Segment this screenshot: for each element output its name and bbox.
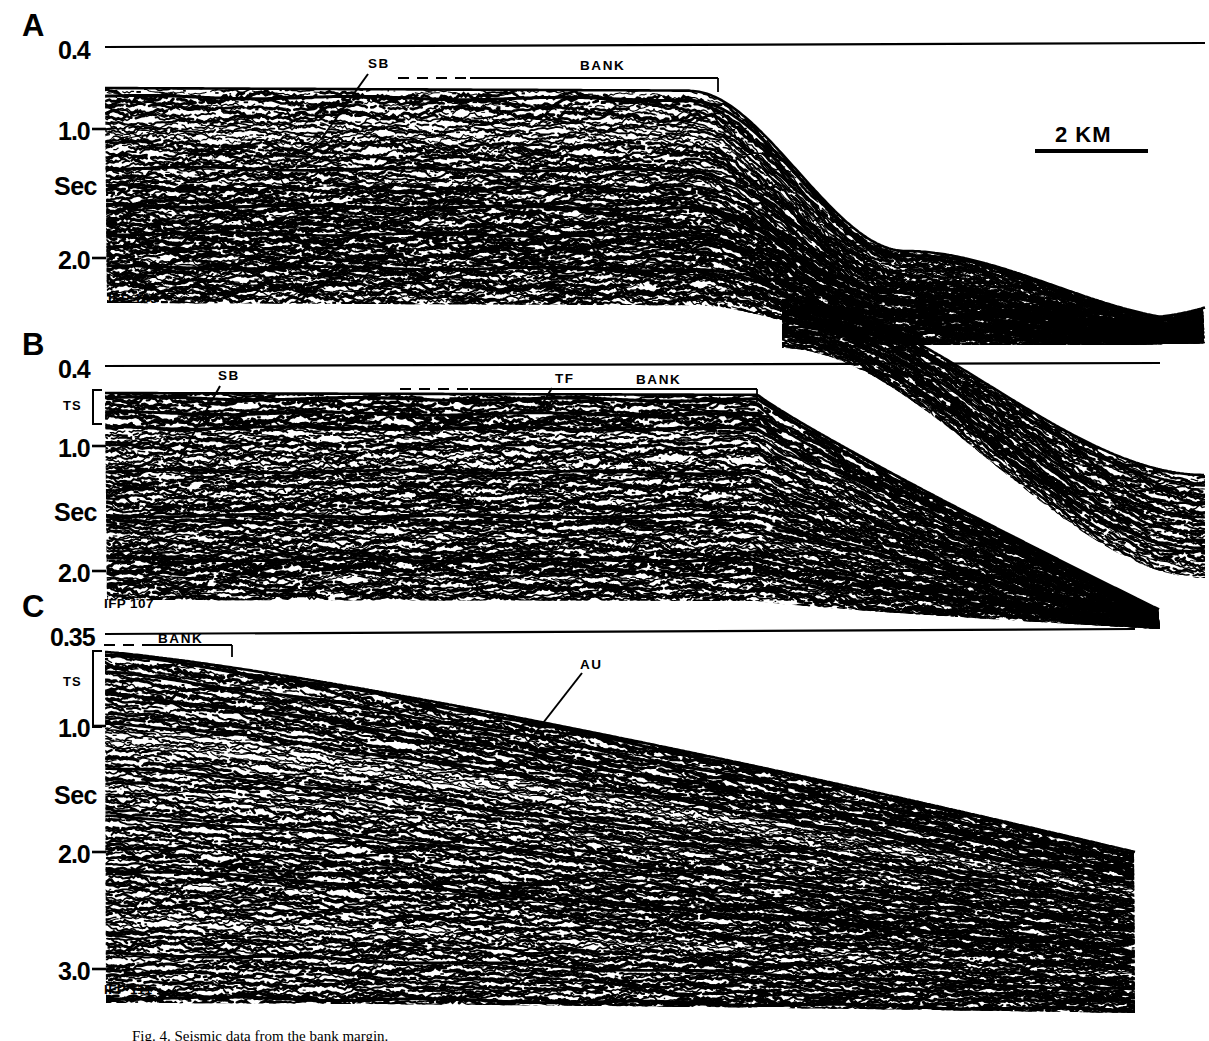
annotation-tf-b: TF: [555, 371, 575, 386]
axis-tick-label-c-3: 2.0: [58, 840, 90, 869]
axis-tick-label-b-1: 1.0: [58, 434, 90, 463]
seismic-figure: [0, 0, 1209, 1041]
axis-tick-label-c-0: 0.35: [50, 623, 95, 652]
axis-tick-label-a-1: 1.0: [58, 117, 90, 146]
ts-label-b: TS: [63, 398, 82, 413]
annotation-bank-b: BANK: [636, 372, 681, 387]
panel-letter-a: A: [22, 8, 44, 44]
scale-bar-label: 2 KM: [1055, 122, 1112, 148]
axis-tick-label-c-4: 3.0: [58, 957, 90, 986]
panel-letter-b: B: [22, 327, 44, 363]
annotation-bank-a: BANK: [580, 58, 625, 73]
seismic-canvas: [0, 0, 1209, 1041]
axis-tick-label-b-3: 2.0: [58, 559, 90, 588]
survey-line-label-c: IFP 111: [104, 982, 152, 997]
survey-line-label-a: IFP 103: [108, 291, 158, 306]
bracket-label-bank-c: BANK: [158, 631, 203, 646]
axis-tick-label-b-2: Sec: [54, 498, 97, 527]
ts-label-c: TS: [63, 674, 82, 689]
annotation-sb-a: SB: [368, 56, 390, 71]
axis-tick-label-a-0: 0.4: [58, 36, 90, 65]
annotation-sb-b: SB: [218, 368, 240, 383]
axis-tick-label-a-2: Sec: [54, 172, 97, 201]
panel-letter-c: C: [22, 589, 44, 625]
axis-tick-label-b-0: 0.4: [58, 355, 90, 384]
axis-tick-label-c-1: 1.0: [58, 714, 90, 743]
survey-line-label-b: IFP 107: [104, 596, 154, 611]
figure-caption: Fig. 4. Seismic data from the bank margi…: [132, 1028, 388, 1041]
axis-tick-label-c-2: Sec: [54, 781, 97, 810]
axis-tick-label-a-3: 2.0: [58, 246, 90, 275]
annotation-au-c: AU: [580, 657, 603, 672]
